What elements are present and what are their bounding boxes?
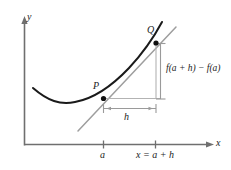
point-q-marker [153, 40, 158, 45]
point-p-marker [101, 96, 106, 101]
rise-measure-label: f(a + h) − f(a) [166, 64, 221, 74]
point-q-label: Q [147, 25, 154, 35]
figure-canvas [0, 0, 231, 170]
point-p-label: P [93, 81, 99, 91]
y-axis-label: y [27, 12, 31, 22]
x-tick-label-x-a-plus-h: x = a + h [136, 150, 174, 160]
run-measure-label: h [124, 112, 129, 122]
rise-measure-bracket [156, 44, 166, 100]
x-axis-arrow-icon [206, 141, 214, 147]
run-measure-arrow-right-icon [149, 107, 154, 111]
x-axis-label: x [216, 138, 220, 148]
x-axis [25, 141, 215, 147]
run-measure-bracket [104, 104, 157, 113]
y-axis [21, 16, 27, 146]
difference-quotient-figure: y x P Q h f(a + h) − f(a) a x = a + h [0, 0, 231, 170]
run-measure-arrow-left-icon [107, 107, 112, 111]
x-tick-label-a: a [100, 150, 105, 160]
